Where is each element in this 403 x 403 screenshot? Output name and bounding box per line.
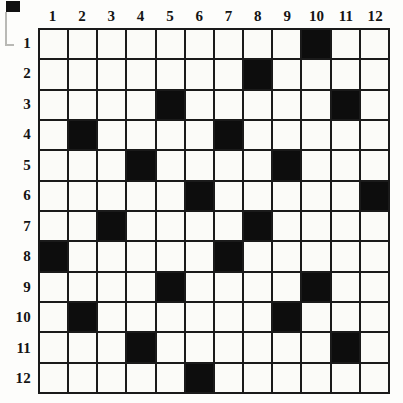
grid-cell-filled[interactable] bbox=[215, 242, 242, 270]
grid-cell-empty[interactable] bbox=[332, 182, 359, 210]
grid-cell-empty[interactable] bbox=[332, 364, 359, 392]
grid-cell-filled[interactable] bbox=[69, 303, 96, 331]
grid-cell-empty[interactable] bbox=[40, 303, 67, 331]
grid-cell-empty[interactable] bbox=[302, 212, 329, 240]
grid-cell-filled[interactable] bbox=[186, 364, 213, 392]
grid-cell-empty[interactable] bbox=[98, 182, 125, 210]
grid-cell-empty[interactable] bbox=[244, 151, 271, 179]
grid-cell-empty[interactable] bbox=[244, 121, 271, 149]
grid-cell-empty[interactable] bbox=[332, 151, 359, 179]
grid-cell-empty[interactable] bbox=[215, 364, 242, 392]
grid-cell-empty[interactable] bbox=[186, 273, 213, 301]
grid-cell-empty[interactable] bbox=[332, 121, 359, 149]
grid-cell-empty[interactable] bbox=[69, 242, 96, 270]
grid-cell-filled[interactable] bbox=[69, 121, 96, 149]
grid-cell-empty[interactable] bbox=[127, 30, 154, 58]
grid-cell-empty[interactable] bbox=[98, 242, 125, 270]
grid-cell-empty[interactable] bbox=[40, 273, 67, 301]
grid-cell-empty[interactable] bbox=[302, 121, 329, 149]
grid-cell-empty[interactable] bbox=[186, 242, 213, 270]
grid-cell-filled[interactable] bbox=[244, 212, 271, 240]
grid-cell-empty[interactable] bbox=[69, 182, 96, 210]
grid-cell-empty[interactable] bbox=[40, 151, 67, 179]
grid-cell-empty[interactable] bbox=[157, 182, 184, 210]
grid-cell-empty[interactable] bbox=[273, 121, 300, 149]
grid-cell-filled[interactable] bbox=[98, 212, 125, 240]
grid-cell-filled[interactable] bbox=[186, 182, 213, 210]
grid-cell-empty[interactable] bbox=[302, 60, 329, 88]
grid-cell-empty[interactable] bbox=[215, 182, 242, 210]
grid-cell-empty[interactable] bbox=[244, 182, 271, 210]
grid-cell-filled[interactable] bbox=[332, 333, 359, 361]
grid-cell-empty[interactable] bbox=[302, 151, 329, 179]
grid-cell-empty[interactable] bbox=[215, 60, 242, 88]
grid-cell-empty[interactable] bbox=[244, 242, 271, 270]
grid-cell-empty[interactable] bbox=[40, 364, 67, 392]
grid-cell-empty[interactable] bbox=[69, 364, 96, 392]
grid-cell-empty[interactable] bbox=[215, 91, 242, 119]
grid-cell-empty[interactable] bbox=[98, 364, 125, 392]
grid-cell-empty[interactable] bbox=[273, 242, 300, 270]
grid-cell-empty[interactable] bbox=[273, 364, 300, 392]
grid-cell-empty[interactable] bbox=[361, 30, 388, 58]
grid-cell-filled[interactable] bbox=[332, 91, 359, 119]
puzzle-grid[interactable] bbox=[38, 28, 390, 394]
grid-cell-empty[interactable] bbox=[302, 91, 329, 119]
grid-cell-empty[interactable] bbox=[244, 303, 271, 331]
grid-cell-empty[interactable] bbox=[98, 333, 125, 361]
grid-cell-empty[interactable] bbox=[215, 151, 242, 179]
grid-cell-empty[interactable] bbox=[244, 91, 271, 119]
grid-cell-empty[interactable] bbox=[127, 242, 154, 270]
grid-cell-empty[interactable] bbox=[127, 364, 154, 392]
grid-cell-empty[interactable] bbox=[361, 242, 388, 270]
grid-cell-empty[interactable] bbox=[69, 91, 96, 119]
grid-cell-empty[interactable] bbox=[98, 303, 125, 331]
grid-cell-empty[interactable] bbox=[98, 91, 125, 119]
grid-cell-empty[interactable] bbox=[127, 91, 154, 119]
grid-cell-filled[interactable] bbox=[157, 91, 184, 119]
grid-cell-empty[interactable] bbox=[40, 30, 67, 58]
grid-cell-empty[interactable] bbox=[215, 212, 242, 240]
grid-cell-empty[interactable] bbox=[157, 242, 184, 270]
grid-cell-empty[interactable] bbox=[186, 333, 213, 361]
grid-cell-filled[interactable] bbox=[273, 151, 300, 179]
grid-cell-empty[interactable] bbox=[157, 121, 184, 149]
grid-cell-empty[interactable] bbox=[215, 303, 242, 331]
grid-cell-empty[interactable] bbox=[127, 182, 154, 210]
grid-cell-empty[interactable] bbox=[244, 364, 271, 392]
grid-cell-filled[interactable] bbox=[157, 273, 184, 301]
grid-cell-empty[interactable] bbox=[332, 212, 359, 240]
grid-cell-empty[interactable] bbox=[157, 212, 184, 240]
grid-cell-empty[interactable] bbox=[98, 121, 125, 149]
grid-cell-empty[interactable] bbox=[186, 60, 213, 88]
grid-cell-empty[interactable] bbox=[186, 303, 213, 331]
grid-cell-empty[interactable] bbox=[186, 151, 213, 179]
grid-cell-empty[interactable] bbox=[244, 273, 271, 301]
grid-cell-filled[interactable] bbox=[302, 30, 329, 58]
grid-cell-empty[interactable] bbox=[215, 333, 242, 361]
grid-cell-empty[interactable] bbox=[157, 303, 184, 331]
grid-cell-empty[interactable] bbox=[98, 60, 125, 88]
grid-cell-empty[interactable] bbox=[40, 121, 67, 149]
grid-cell-empty[interactable] bbox=[69, 273, 96, 301]
grid-cell-empty[interactable] bbox=[273, 182, 300, 210]
grid-cell-empty[interactable] bbox=[157, 151, 184, 179]
grid-cell-empty[interactable] bbox=[361, 303, 388, 331]
grid-cell-empty[interactable] bbox=[215, 30, 242, 58]
grid-cell-empty[interactable] bbox=[361, 212, 388, 240]
grid-cell-empty[interactable] bbox=[186, 30, 213, 58]
grid-cell-empty[interactable] bbox=[361, 121, 388, 149]
grid-cell-empty[interactable] bbox=[157, 333, 184, 361]
grid-cell-empty[interactable] bbox=[273, 91, 300, 119]
grid-cell-filled[interactable] bbox=[215, 121, 242, 149]
grid-cell-empty[interactable] bbox=[332, 60, 359, 88]
grid-cell-filled[interactable] bbox=[273, 303, 300, 331]
grid-cell-empty[interactable] bbox=[273, 30, 300, 58]
grid-cell-empty[interactable] bbox=[127, 121, 154, 149]
grid-cell-empty[interactable] bbox=[302, 364, 329, 392]
grid-cell-empty[interactable] bbox=[98, 30, 125, 58]
grid-cell-empty[interactable] bbox=[215, 273, 242, 301]
grid-cell-empty[interactable] bbox=[69, 333, 96, 361]
grid-cell-empty[interactable] bbox=[302, 242, 329, 270]
grid-cell-empty[interactable] bbox=[361, 151, 388, 179]
